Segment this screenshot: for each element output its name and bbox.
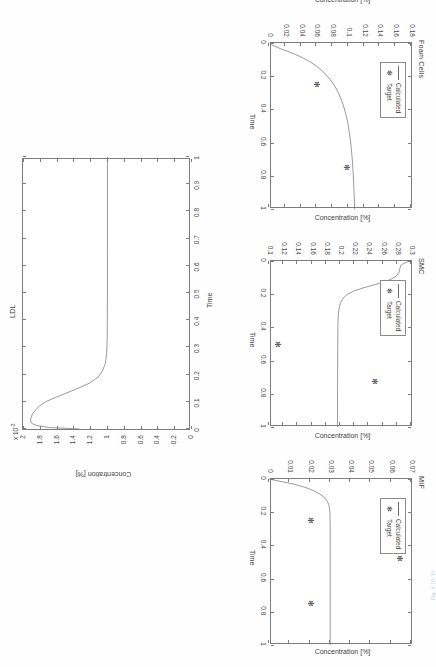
target-marker: ✻ [370, 378, 378, 385]
y-tick [174, 426, 175, 429]
y-tick [394, 43, 395, 46]
y-tick [157, 159, 158, 162]
y-tick-label: 0.28 [394, 222, 401, 255]
x-tick [408, 394, 411, 395]
x-tick [23, 210, 26, 211]
x-tick-label: 0.6 [193, 262, 200, 271]
x-tick [271, 612, 274, 613]
y-tick [300, 43, 301, 46]
x-tick [271, 109, 274, 110]
legend-row-target: ✻ Target [385, 502, 394, 550]
x-tick-label: 0.4 [260, 104, 267, 113]
y-tick-label: 1.4 [69, 435, 76, 468]
y-tick-label: 0.02 [307, 440, 314, 473]
x-tick [271, 261, 274, 262]
x-tick-label: 0.2 [260, 289, 267, 298]
x-tick [271, 143, 274, 144]
legend-foam-cells: Calculated ✻ Target [380, 62, 406, 118]
y-tick-label: 0 [187, 435, 194, 468]
y-tick [347, 204, 348, 207]
y-tick [107, 159, 108, 162]
x-tick [186, 238, 189, 239]
y-tick-label: 0 [267, 4, 274, 37]
y-tick [390, 640, 391, 643]
legend-mif: Calculated ✻ Target [380, 498, 406, 554]
x-tick [271, 579, 274, 580]
y-tick [191, 159, 192, 162]
legend-row-calculated: Calculated [394, 502, 403, 550]
x-tick-label: 0.4 [193, 317, 200, 326]
x-tick [271, 545, 274, 546]
y-tick-label: 0.24 [366, 222, 373, 255]
y-tick [353, 261, 354, 264]
x-tick-label: 0.5 [193, 289, 200, 298]
curve-calculated-foam-cells [269, 43, 354, 209]
y-tick [339, 261, 340, 264]
x-tick [408, 512, 411, 513]
x-tick-label: 0.1 [193, 398, 200, 407]
x-tick-label: 0 [260, 476, 267, 480]
plot-title-smc: SMC [417, 258, 426, 275]
curve-svg-ldl [23, 157, 191, 429]
y-tick-label: 0.04 [348, 440, 355, 473]
x-tick-label: 1 [193, 156, 200, 160]
y-tick [369, 640, 370, 643]
y-tick [141, 159, 142, 162]
x-tick [408, 176, 411, 177]
y-axis-label-smc: Concentration [%] [315, 214, 371, 221]
y-tick-label: 0.3 [409, 222, 416, 255]
x-tick [186, 210, 189, 211]
y-tick-label: 1.2 [86, 435, 93, 468]
y-tick [325, 422, 326, 425]
x-tick [271, 361, 274, 362]
x-tick-label: 0.2 [260, 71, 267, 80]
y-tick [268, 479, 269, 482]
x-tick-label: 0.8 [260, 388, 267, 397]
x-tick-label: 0.4 [260, 540, 267, 549]
x-tick [408, 143, 411, 144]
y-tick-label: 0.08 [330, 4, 337, 37]
y-tick-label: 0.07 [409, 440, 416, 473]
y-tick [309, 479, 310, 482]
y-tick-label: 0.01 [287, 440, 294, 473]
y-tick-label: 0.04 [298, 4, 305, 37]
x-tick [23, 401, 26, 402]
figure-caption: Fig. 4.10: Fi [430, 571, 436, 600]
y-axis-label-mif-top: Concentration [%] [315, 648, 371, 655]
legend-star-sample: ✻ [386, 502, 393, 516]
y-tick-label: 0.8 [119, 435, 126, 468]
target-marker: ✻ [342, 164, 350, 171]
x-tick-label: 1 [260, 206, 267, 210]
y-tick [296, 261, 297, 264]
y-tick-label: 0.14 [377, 4, 384, 37]
y-tick [349, 479, 350, 482]
x-tick [408, 76, 411, 77]
y-tick-label: 0.1 [345, 4, 352, 37]
y-tick-label: 0.16 [309, 222, 316, 255]
plot-title-ldl: LDL [8, 304, 17, 318]
target-marker: ✻ [312, 81, 320, 88]
x-tick [271, 427, 274, 428]
y-tick-label: 0.26 [380, 222, 387, 255]
y-tick [315, 43, 316, 46]
x-tick [408, 545, 411, 546]
y-tick-label: 2 [19, 435, 26, 468]
x-tick [408, 427, 411, 428]
y-tick [23, 426, 24, 429]
y-tick [363, 204, 364, 207]
y-axis-label-foam-cells: Concentration [%] [315, 0, 371, 3]
x-tick-label: 1 [260, 642, 267, 646]
y-tick [107, 426, 108, 429]
y-tick-label: 0.6 [136, 435, 143, 468]
y-tick-label: 1.8 [35, 435, 42, 468]
y-tick [410, 422, 411, 425]
y-tick [329, 479, 330, 482]
y-tick [174, 159, 175, 162]
x-axis-label-mif: Time [249, 550, 256, 565]
x-tick [186, 183, 189, 184]
x-tick [408, 294, 411, 295]
x-tick [23, 319, 26, 320]
y-tick [284, 43, 285, 46]
legend-label-target: Target [386, 83, 393, 101]
legend-label-target: Target [386, 301, 393, 319]
